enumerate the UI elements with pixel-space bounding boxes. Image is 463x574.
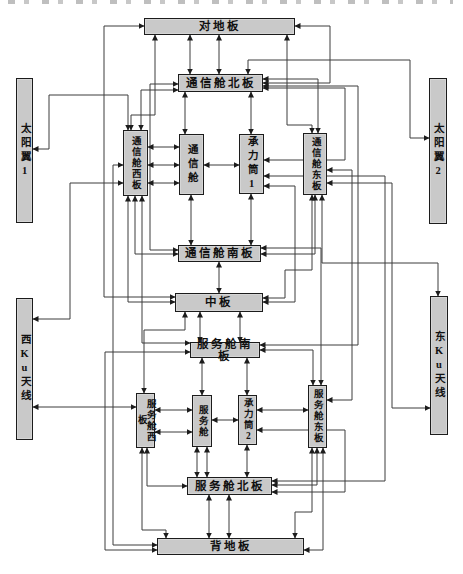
node-tongxincang-xiban: 通信舱西板: [123, 130, 148, 196]
node-tongxincang: 通信舱: [179, 134, 204, 195]
node-tongxincang-nanban: 通信舱南板: [178, 245, 261, 262]
edge-24: [135, 196, 178, 254]
node-chenglitong-2: 承力筒2: [238, 395, 257, 445]
edge-32: [327, 170, 352, 400]
edge-9: [322, 195, 438, 296]
node-beidiban: 背地板: [157, 538, 304, 555]
edge-52: [142, 448, 166, 538]
node-zhongban: 中板: [175, 293, 263, 312]
edge-55: [304, 448, 323, 550]
edge-51: [147, 448, 187, 486]
edge-2: [131, 35, 155, 130]
satellite-thermal-network-diagram: 对地板通信舱北板太阳翼1通信舱西板通信舱承力筒1通信舱东板太阳翼2通信舱南板中板…: [0, 0, 463, 574]
edge-3: [287, 35, 312, 133]
edge-13: [248, 60, 429, 138]
edge-12: [33, 95, 128, 149]
node-duidiban: 对地板: [144, 18, 295, 35]
node-tongxincang-dongban: 通信舱东板: [303, 133, 327, 195]
edge-42: [260, 350, 313, 385]
edge-10: [150, 84, 178, 250]
node-dong-ku-tianxian: 东Ku天线: [430, 296, 448, 435]
edge-21: [263, 186, 295, 302]
node-fuwucang-nanban: 服务舱南板: [190, 342, 260, 358]
edge-23: [33, 183, 123, 319]
edge-37: [142, 196, 190, 343]
node-chenglitong-1: 承力筒1: [239, 134, 264, 194]
node-taiyangyi-2: 太阳翼2: [429, 78, 447, 224]
edge-33: [327, 183, 430, 408]
edge-7: [141, 90, 178, 130]
edge-28: [261, 195, 315, 254]
node-fuwucang: 服务舱: [192, 395, 212, 447]
node-fuwucang-xiban: 服务舱西板: [136, 393, 155, 448]
edge-53: [272, 448, 317, 485]
node-taiyangyi-1: 太阳翼1: [16, 78, 33, 223]
node-fuwucang-dongban: 服务舱东板: [308, 385, 327, 448]
node-tongxincang-beiban: 通信舱北板: [178, 74, 263, 92]
node-xi-ku-tianxian: 西Ku天线: [16, 298, 33, 440]
node-fuwucang-beiban: 服务舱北板: [187, 477, 272, 495]
edge-54: [295, 448, 312, 538]
edge-29: [263, 195, 312, 298]
